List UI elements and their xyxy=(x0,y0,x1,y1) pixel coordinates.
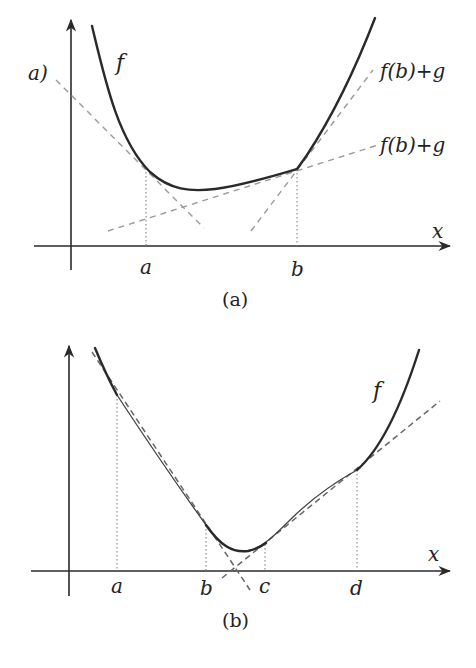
tick-label-a: a xyxy=(140,255,152,279)
tangent-line-left xyxy=(92,352,250,590)
x-axis-label-a: x xyxy=(432,219,443,243)
x-axis-label-b: x xyxy=(428,542,439,566)
function-label-a: f xyxy=(114,50,128,75)
panel-a: f a) f(b)+g f(b)+g x a b (a) xyxy=(28,18,450,310)
caption-b: (b) xyxy=(222,609,249,631)
function-curve-b-left xyxy=(95,348,117,395)
line-label-lower: f(b)+g xyxy=(378,133,445,157)
tick-label-b: b xyxy=(200,576,213,600)
diagram-canvas: f a) f(b)+g f(b)+g x a b (a) f x a b c d… xyxy=(0,0,476,668)
function-curve-b-right xyxy=(357,350,419,470)
partial-left-label: a) xyxy=(28,61,48,85)
line-label-upper: f(b)+g xyxy=(378,59,445,83)
subgradient-line-shallow xyxy=(108,145,378,231)
tick-label-b: b xyxy=(291,257,304,281)
function-curve-b-middle xyxy=(117,395,357,551)
panel-b: f x a b c d (b) xyxy=(31,346,450,631)
tangent-line-at-a xyxy=(56,80,204,228)
function-curve-a xyxy=(92,18,375,190)
tick-label-a: a xyxy=(111,574,123,598)
tick-label-d: d xyxy=(350,576,363,600)
caption-a: (a) xyxy=(222,288,248,310)
function-label-b: f xyxy=(371,378,385,403)
subgradient-line-steep xyxy=(251,70,373,231)
tangent-line-right xyxy=(222,401,440,578)
tick-label-c: c xyxy=(259,574,270,598)
function-curve-b-bottom xyxy=(206,525,266,551)
